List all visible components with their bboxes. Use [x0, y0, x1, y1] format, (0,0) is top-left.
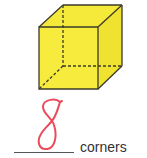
answer-blank-line: [14, 152, 74, 153]
cube-figure: [0, 0, 147, 100]
corners-label: corners: [80, 139, 127, 155]
handwritten-answer-8: [34, 98, 66, 152]
